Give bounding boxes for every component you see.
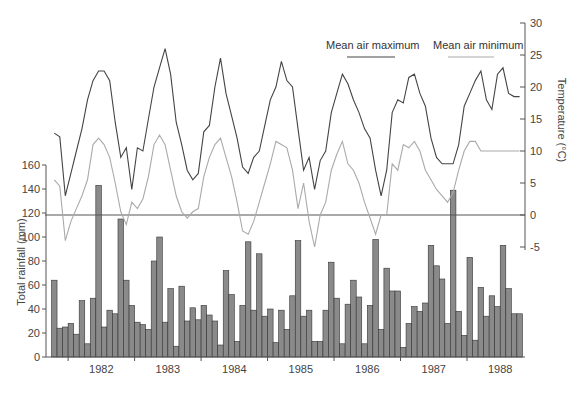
year-label: 1986 [355,363,379,375]
rainfall-bar [389,291,395,357]
left-tick-label: 20 [28,327,40,339]
rainfall-bar [190,308,196,357]
right-tick-label: 5 [530,177,536,189]
rainfall-bar [412,307,418,357]
rainfall-bar [445,323,451,357]
left-tick-label: 160 [22,159,40,171]
rainfall-bar [240,305,246,357]
right-tick-label: 10 [530,145,542,157]
rainfall-bar [107,310,113,357]
temperature-lines [54,49,519,247]
rainfall-bar [434,266,440,357]
rainfall-bar [401,347,407,357]
rainfall-bar [439,279,445,357]
left-tick-label: 40 [28,303,40,315]
rainfall-bar [378,329,384,357]
legend-min-label: Mean air minimum [433,39,523,51]
rainfall-bar [312,341,318,357]
rainfall-bar [456,311,462,357]
right-tick-label: -5 [530,241,540,253]
rainfall-bars [52,185,523,357]
rainfall-bar [367,305,373,357]
rainfall-bar [473,340,479,357]
rainfall-bar [489,296,495,357]
right-tick-label: 20 [530,81,542,93]
legend-max-label: Mean air maximum [326,39,420,51]
rainfall-bar [57,328,63,357]
rainfall-bar [63,327,69,357]
rainfall-bar [268,309,274,357]
left-axis-title: Total rainfall (mm) [15,218,27,305]
rainfall-bar [157,237,163,357]
rainfall-bar [484,316,490,357]
rainfall-bar [101,327,107,357]
rainfall-bar [284,329,290,357]
mean-air-maximum-line [54,49,519,196]
year-label: 1982 [89,363,113,375]
rainfall-bar [323,310,329,357]
rainfall-bar [478,287,484,357]
rainfall-bar [68,323,74,357]
left-tick-label: 0 [34,351,40,363]
rainfall-bar [334,298,340,357]
year-axis: 1982198319841985198619871988 [46,357,525,375]
legend: Mean air maximum Mean air minimum [326,39,523,57]
rainfall-bar [467,257,473,357]
rainfall-bar [461,335,467,357]
rainfall-bar [290,296,296,357]
year-label: 1984 [222,363,246,375]
rainfall-bar [395,291,401,357]
rainfall-bar [79,301,85,357]
rainfall-bar [118,219,124,357]
rainfall-bar [384,268,390,357]
year-label: 1988 [488,363,512,375]
rainfall-bar [428,245,434,357]
climate-chart: 020406080100120140160 -5051015202530 198… [0,0,575,393]
rainfall-bar [373,239,379,357]
rainfall-bar [362,344,368,357]
rainfall-bar [273,343,279,357]
rainfall-bar [517,314,523,357]
rainfall-bar [251,310,257,357]
rainfall-bar [306,310,312,357]
rainfall-bar [129,305,135,357]
rainfall-bar [500,245,506,357]
right-tick-label: 15 [530,113,542,125]
rainfall-bar [245,242,251,357]
rainfall-bar [96,185,102,357]
right-tick-label: 30 [530,17,542,29]
rainfall-bar [135,322,141,357]
rainfall-bar [85,344,91,357]
rainfall-bar [90,298,96,357]
rainfall-bar [511,314,517,357]
rainfall-bar [423,303,429,357]
rainfall-bar [345,304,351,357]
rainfall-bar [124,280,130,357]
rainfall-bar [295,241,301,357]
left-tick-label: 60 [28,279,40,291]
rainfall-bar [146,329,152,357]
rainfall-bar [495,307,501,357]
left-tick-label: 140 [22,183,40,195]
rainfall-bar [417,311,423,357]
rainfall-bar [317,341,323,357]
year-label: 1985 [289,363,313,375]
rainfall-bar [406,323,412,357]
year-label: 1987 [422,363,446,375]
rainfall-bar [162,322,168,357]
rainfall-bar [52,280,58,357]
left-tick-label: 80 [28,255,40,267]
rainfall-bar [262,316,268,357]
rainfall-bar [329,262,335,357]
rainfall-bar [256,254,262,357]
rainfall-bar [340,344,346,357]
year-label: 1983 [156,363,180,375]
rainfall-bar [179,286,185,357]
rainfall-bar [506,289,512,357]
left-tick-label: 120 [22,207,40,219]
rainfall-bar [223,271,229,357]
rainfall-bar [234,341,240,357]
rainfall-bar [112,314,118,357]
rainfall-bar [151,261,157,357]
rainfall-bar [201,305,207,357]
